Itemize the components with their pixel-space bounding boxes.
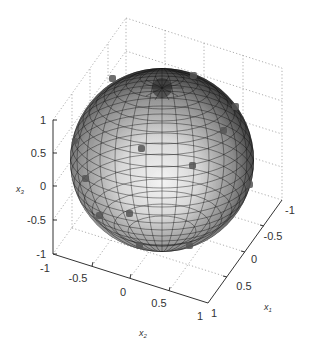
marker [82,175,89,182]
marker [189,162,196,169]
x2-tick: -0.5 [69,272,88,284]
x3-tick: -1 [36,248,46,260]
x1-tick: 0 [251,253,257,265]
x3-tick: 0 [40,180,46,192]
x1-tick: -0.5 [264,230,283,242]
x2-tick-labels: -1 -0.5 0 0.5 1 [40,262,203,322]
x2-tick: 0 [120,286,126,298]
marker [190,72,197,79]
x1-tick: -1 [285,204,295,216]
marker [220,127,227,134]
x1-tick: 1 [211,307,217,319]
x2-tick: -1 [40,262,50,274]
marker [136,242,143,249]
sphere-3d-plot: 1 0.5 0 -0.5 -1 -1 -0.5 0 0.5 1 1 0.5 0 … [0,0,309,354]
marker [186,242,193,249]
sphere-surface [70,68,254,252]
marker [138,145,145,152]
marker [246,181,253,188]
marker [109,75,116,82]
marker [96,212,103,219]
x2-tick: 1 [197,310,203,322]
x3-tick: 1 [40,114,46,126]
x3-tick: -0.5 [27,214,46,226]
marker [72,138,78,144]
x2-axis-label: x2 [138,328,148,339]
x2-tick: 0.5 [151,297,166,309]
marker [126,210,133,217]
x1-axis-label: x1 [263,302,272,313]
x3-tick: 0.5 [31,147,46,159]
marker [232,103,239,110]
x1-tick: 0.5 [236,280,251,292]
x3-axis-label: x3 [15,184,25,195]
x3-tick-labels: 1 0.5 0 -0.5 -1 [27,114,46,260]
